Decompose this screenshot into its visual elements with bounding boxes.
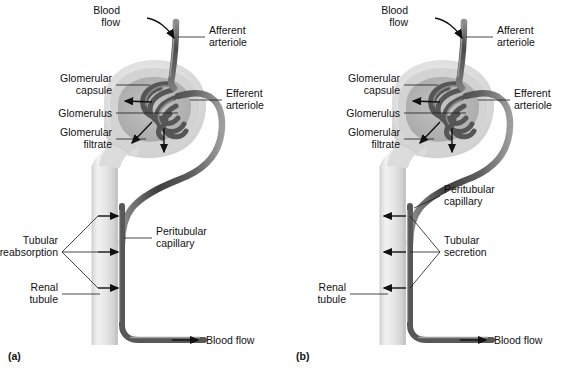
panel-tag-a: (a) xyxy=(8,350,21,362)
label-blood-flow-top-a-line1: Blood xyxy=(93,4,120,16)
label-glomerular-capsule-b-line1: Glomerular xyxy=(348,72,400,84)
panel-tag-b: (b) xyxy=(296,350,309,362)
label-efferent-arteriole-b-line2: arteriole xyxy=(514,99,552,111)
label-glomerulus-b: Glomerulus xyxy=(346,107,400,119)
label-afferent-arteriole-a-line2: arteriole xyxy=(209,36,247,48)
label-tubular-secretion-b-line1: Tubular xyxy=(444,234,480,246)
label-peritubular-capillary-a-line1: Peritubular xyxy=(156,225,207,237)
label-glomerular-capsule-b-line2: capsule xyxy=(364,84,400,96)
label-tubular-reabsorption-a-line1: Tubular xyxy=(23,234,59,246)
label-renal-tubule-b-line2: tubule xyxy=(317,293,346,305)
label-blood-flow-bottom-a: Blood flow xyxy=(206,334,255,346)
label-efferent-arteriole-a-line2: arteriole xyxy=(226,99,264,111)
label-glomerular-filtrate-b-line1: Glomerular xyxy=(348,126,400,138)
label-blood-flow-bottom-b: Blood flow xyxy=(494,334,543,346)
label-peritubular-capillary-b-line1: Peritubular xyxy=(444,183,495,195)
label-glomerular-filtrate-a-line2: filtrate xyxy=(83,138,112,150)
label-afferent-arteriole-b-line1: Afferent xyxy=(497,24,534,36)
diagram-canvas: Blood flow Afferent arteriole Efferent a… xyxy=(0,0,576,369)
label-glomerular-capsule-a-line2: capsule xyxy=(76,84,112,96)
label-glomerular-capsule-a-line1: Glomerular xyxy=(60,72,112,84)
nephron-diagram-figure: Blood flow Afferent arteriole Efferent a… xyxy=(0,0,576,369)
label-afferent-arteriole-a-line1: Afferent xyxy=(209,24,246,36)
label-renal-tubule-a-line1: Renal xyxy=(31,281,58,293)
label-blood-flow-top-b-line2: flow xyxy=(389,16,408,28)
renal-tubule-b xyxy=(380,150,406,345)
label-blood-flow-top-b-line1: Blood xyxy=(381,4,408,16)
label-efferent-arteriole-b-line1: Efferent xyxy=(514,87,551,99)
label-tubular-secretion-b-line2: secretion xyxy=(444,246,487,258)
label-glomerulus-a: Glomerulus xyxy=(58,107,112,119)
label-efferent-arteriole-a-line1: Efferent xyxy=(226,87,263,99)
label-blood-flow-top-a-line2: flow xyxy=(101,16,120,28)
label-renal-tubule-a-line2: tubule xyxy=(29,293,58,305)
label-peritubular-capillary-a-line2: capillary xyxy=(156,237,195,249)
label-renal-tubule-b-line1: Renal xyxy=(319,281,346,293)
label-glomerular-filtrate-b-line2: filtrate xyxy=(371,138,400,150)
label-peritubular-capillary-b-line2: capillary xyxy=(444,195,483,207)
label-glomerular-filtrate-a-line1: Glomerular xyxy=(60,126,112,138)
label-tubular-reabsorption-a-line2: reabsorption xyxy=(0,246,58,258)
renal-tubule-a xyxy=(92,150,118,345)
label-afferent-arteriole-b-line2: arteriole xyxy=(497,36,535,48)
